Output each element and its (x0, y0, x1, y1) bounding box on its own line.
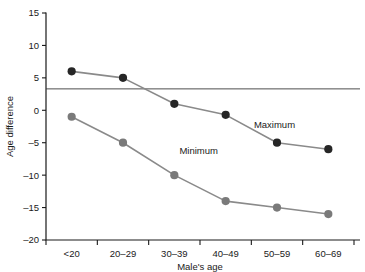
y-tick-label: 15 (28, 7, 39, 18)
y-tick-label: 0 (34, 105, 39, 116)
series-line-minimum (72, 117, 329, 214)
data-point-minimum-5 (324, 210, 332, 218)
y-tick-label: –5 (28, 137, 39, 148)
data-point-minimum-1 (119, 139, 127, 147)
data-point-minimum-0 (68, 113, 76, 121)
y-tick-label: –20 (23, 234, 39, 245)
series-label-minimum: Minimum (179, 145, 218, 156)
data-point-maximum-5 (324, 145, 332, 153)
x-tick-label: 60–69 (315, 248, 341, 259)
x-tick-label: 50–59 (264, 248, 290, 259)
data-point-maximum-1 (119, 74, 127, 82)
y-axis-title: Age difference (4, 96, 15, 157)
data-point-maximum-3 (222, 111, 230, 119)
series-label-maximum: Maximum (254, 119, 295, 130)
y-tick-label: 5 (34, 72, 39, 83)
data-point-minimum-2 (170, 171, 178, 179)
x-tick-label: <20 (64, 248, 80, 259)
y-tick-label: –10 (23, 170, 39, 181)
y-tick-label: 10 (28, 40, 39, 51)
chart-axes (46, 13, 360, 241)
data-point-maximum-0 (68, 67, 76, 75)
data-point-maximum-2 (170, 100, 178, 108)
data-point-minimum-4 (273, 203, 281, 211)
x-tick-label: 30–39 (161, 248, 187, 259)
series-line-maximum (72, 71, 329, 149)
data-point-maximum-4 (273, 139, 281, 147)
chart-container: –20–15–10–5051015<2020–2930–3940–4950–59… (0, 0, 365, 272)
line-chart: –20–15–10–5051015<2020–2930–3940–4950–59… (0, 0, 365, 272)
x-tick-label: 40–49 (212, 248, 238, 259)
x-tick-label: 20–29 (110, 248, 136, 259)
data-point-minimum-3 (222, 197, 230, 205)
y-tick-label: –15 (23, 202, 39, 213)
x-axis-title: Male's age (177, 261, 223, 272)
